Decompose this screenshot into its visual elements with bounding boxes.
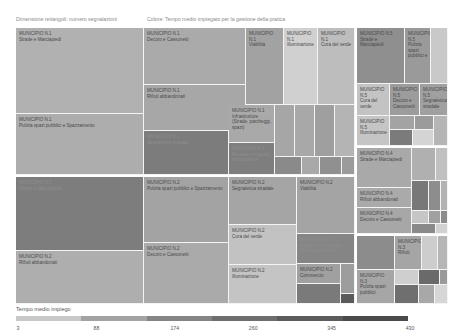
treemap-cell[interactable]: MUNICIPIO N.5Pulizia spazi pubblici e — [405, 28, 431, 84]
treemap-cell-label: MUNICIPIO N.1Cura del verde — [321, 31, 352, 48]
legend-swatch — [81, 316, 146, 321]
treemap-cell-label: MUNICIPIO N.2Rifiuti abbandonati — [19, 254, 141, 265]
treemap-cell[interactable] — [275, 105, 295, 157]
legend-swatch — [147, 316, 212, 321]
treemap-cell[interactable]: MUNICIPIO N.4Decoro e Cassonetti — [357, 208, 412, 234]
treemap-cell[interactable] — [422, 236, 438, 270]
group-separator — [357, 234, 448, 236]
treemap-cell[interactable] — [341, 294, 355, 304]
treemap-cell-label: MUNICIPIO N.2Illuminazione — [232, 268, 294, 279]
treemap-cell[interactable]: MUNICIPIO N.1Cura del verde — [318, 28, 355, 105]
treemap-cell[interactable] — [412, 181, 429, 211]
treemap-cell-label: MUNICIPIO N.1Infrastrutture (Strade, par… — [232, 108, 272, 130]
treemap-cell[interactable]: MUNICIPIO N.1Strade e Marciapiedi — [16, 28, 144, 114]
treemap-cell[interactable]: MUNICIPIO N.2Pulizia spazi pubblici e Sp… — [144, 177, 229, 243]
color-legend-title: Tempo medio impiego — [16, 306, 71, 312]
treemap-cell[interactable] — [390, 130, 413, 146]
treemap-cell[interactable]: MUNICIPIO N.1Pulizia spazi pubblici e Sp… — [16, 114, 144, 175]
treemap-cell-label: MUNICIPIO N.1Rifiuti abbandonati — [147, 88, 243, 99]
treemap-cell[interactable] — [438, 236, 448, 270]
treemap-cell[interactable]: MUNICIPIO N.1Segnaletica stradale — [144, 131, 229, 175]
treemap-cell[interactable] — [295, 105, 315, 157]
treemap-cell[interactable] — [390, 116, 415, 130]
treemap-cell[interactable] — [413, 130, 434, 146]
treemap-cell[interactable] — [395, 270, 419, 285]
treemap-cell[interactable]: MUNICIPIO N.2Strade e Marciapiedi — [16, 177, 144, 251]
treemap-cell[interactable]: MUNICIPIO N.1Viabilità — [246, 28, 284, 105]
treemap-cell[interactable] — [434, 116, 448, 146]
color-legend-gradient — [16, 316, 408, 321]
treemap-cell[interactable] — [412, 148, 436, 181]
treemap-cell[interactable] — [342, 157, 355, 175]
treemap-cell[interactable]: MUNICIPIO N.1Infrastrutture (Strade, par… — [229, 105, 275, 143]
treemap-cell[interactable]: MUNICIPIO N.3Strade e Marciapiedi — [357, 236, 395, 270]
treemap-cell[interactable]: MUNICIPIO N.4Strade e Marciapiedi — [357, 148, 412, 188]
treemap-cell[interactable]: MUNICIPIO N.5Cura del verde — [357, 84, 390, 116]
treemap-cell[interactable] — [302, 157, 320, 175]
treemap-cell-label: MUNICIPIO N.1Fontane e impianti di irrig… — [232, 146, 272, 163]
legend-tick-label: 345 — [327, 325, 336, 331]
treemap-cell[interactable]: MUNICIPIO N.5Decoro e Cassonetti — [390, 84, 420, 116]
legend-tick-label: 88 — [94, 325, 100, 331]
treemap-cell[interactable] — [315, 105, 335, 157]
treemap-cell[interactable] — [419, 285, 435, 304]
treemap-cell[interactable] — [419, 270, 440, 285]
treemap-cell[interactable]: MUNICIPIO N.1Fontane e impianti di irrig… — [229, 143, 275, 175]
treemap-cell[interactable]: MUNICIPIO N.5Segnaletica stradale — [420, 84, 448, 116]
treemap-cell-label: MUNICIPIO N.2Pulizia spazi pubblici e Sp… — [147, 180, 226, 191]
legend-tick-label: 430 — [406, 325, 415, 331]
treemap-cell[interactable]: MUNICIPIO N.1Illuminazione — [284, 28, 318, 105]
treemap-cell[interactable]: MUNICIPIO N.3Pulizia spazi pubblici — [357, 270, 395, 304]
treemap-cell[interactable] — [412, 211, 429, 224]
treemap-cell[interactable] — [436, 148, 448, 181]
size-legend-label: Dimensione rettangoli: numero segnalazio… — [16, 16, 117, 22]
treemap-cell[interactable]: MUNICIPIO N.5Strade e Marciapiedi — [357, 28, 405, 84]
treemap-cell[interactable] — [441, 181, 448, 211]
legend-tick-label: 260 — [249, 325, 258, 331]
treemap-cell-label: MUNICIPIO N.4Rifiuti abbandonati — [360, 191, 409, 202]
legend-swatch — [277, 316, 342, 321]
treemap-cell[interactable] — [436, 224, 448, 234]
treemap-cell[interactable]: MUNICIPIO N.2Decoro e Cassonetti — [144, 243, 229, 304]
treemap-cell-label: MUNICIPIO N.5Segnaletica stradale — [423, 87, 445, 109]
treemap-cell-label: MUNICIPIO N.5Pulizia spazi pubblici e — [408, 31, 428, 59]
treemap-cell[interactable]: MUNICIPIO N.2Rifiuti abbandonati — [16, 251, 144, 304]
treemap-cell-label: MUNICIPIO N.2Cura del verde — [232, 228, 294, 239]
treemap-cell[interactable]: MUNICIPIO N.2Segnaletica stradale — [229, 177, 297, 225]
treemap-cell[interactable]: MUNICIPIO N.4Rifiuti abbandonati — [357, 188, 412, 208]
treemap-cell-label: MUNICIPIO N.2Infrastrutture (Strade, par… — [300, 237, 352, 254]
treemap-cell-label: MUNICIPIO N.4Strade e Marciapiedi — [360, 151, 409, 162]
treemap-cell-label: MUNICIPIO N.5Decoro e Cassonetti — [393, 87, 417, 109]
treemap-cell[interactable]: MUNICIPIO N.2Infrastrutture (Strade, par… — [297, 234, 355, 264]
treemap-cell-label: MUNICIPIO N.5Cura del verde — [360, 87, 387, 109]
treemap-cell[interactable] — [435, 285, 448, 304]
treemap-cell[interactable]: MUNICIPIO N.3Rifiuti — [395, 236, 422, 270]
treemap-cell[interactable] — [395, 285, 419, 304]
treemap-cell[interactable] — [429, 211, 441, 224]
treemap-cell-label: MUNICIPIO N.3Pulizia spazi pubblici — [360, 273, 392, 295]
treemap-cell-label: MUNICIPIO N.1Illuminazione — [287, 31, 315, 48]
treemap-cell[interactable]: MUNICIPIO N.2Viabilità — [297, 177, 355, 234]
group-separator — [16, 175, 355, 177]
treemap-cell[interactable] — [431, 28, 448, 84]
treemap-cell[interactable]: MUNICIPIO N.1Decoro e Cassonetti — [144, 28, 246, 85]
treemap-cell[interactable] — [275, 157, 302, 175]
treemap-cell-label: MUNICIPIO N.5Illuminazione — [360, 119, 387, 136]
treemap-cell[interactable]: MUNICIPIO N.2Commercio — [297, 264, 341, 284]
treemap-cell[interactable] — [320, 157, 342, 175]
treemap-cell[interactable] — [441, 211, 448, 224]
treemap-cell[interactable]: MUNICIPIO N.5Illuminazione — [357, 116, 390, 146]
treemap-cell-label: MUNICIPIO N.1Decoro e Cassonetti — [147, 31, 243, 42]
treemap-cell[interactable] — [341, 264, 355, 294]
treemap-cell[interactable] — [412, 224, 436, 234]
treemap-cell-label: MUNICIPIO N.2Strade e Marciapiedi — [19, 180, 141, 191]
treemap-cell[interactable] — [440, 270, 448, 285]
treemap-cell[interactable] — [335, 105, 355, 157]
treemap-cell-label: MUNICIPIO N.2Viabilità — [300, 180, 352, 191]
legend-tick-label: 3 — [17, 325, 20, 331]
treemap-cell[interactable]: MUNICIPIO N.2Illuminazione — [229, 265, 297, 304]
treemap-cell[interactable] — [429, 181, 441, 211]
treemap-cell[interactable]: MUNICIPIO N.2Cura del verde — [229, 225, 297, 265]
treemap-cell[interactable] — [415, 116, 434, 130]
treemap-cell[interactable] — [297, 284, 341, 304]
